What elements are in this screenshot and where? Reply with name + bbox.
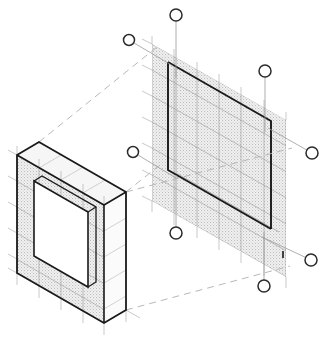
balloon-circle-icon[interactable] xyxy=(124,35,135,46)
balloon-circle-icon[interactable] xyxy=(259,65,271,77)
projection-line-top xyxy=(39,47,157,142)
balloon-circle-icon[interactable] xyxy=(170,227,182,239)
isometric-drawing-canvas xyxy=(0,0,329,345)
isometric-drawing-svg xyxy=(0,0,329,345)
balloon-circle-icon[interactable] xyxy=(305,254,317,266)
balloon-circle-icon[interactable] xyxy=(128,147,139,158)
left-panel xyxy=(8,142,140,335)
balloon-2[interactable] xyxy=(124,35,174,67)
left-panel-side-face xyxy=(104,192,126,323)
balloon-circle-icon[interactable] xyxy=(306,147,318,159)
balloon-circle-icon[interactable] xyxy=(170,9,182,21)
balloon-circle-icon[interactable] xyxy=(258,280,270,292)
